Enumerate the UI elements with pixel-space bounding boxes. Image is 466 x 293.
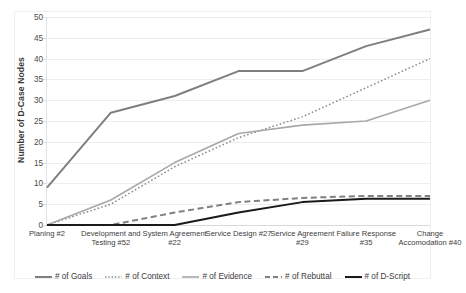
y-axis-tick-label: 45 — [3, 33, 43, 42]
series-line — [47, 29, 430, 187]
legend-label: # of Context — [125, 272, 169, 281]
legend-swatch-icon — [35, 273, 52, 281]
legend-item[interactable]: # of Rebuttal — [265, 272, 331, 281]
series-line — [47, 196, 430, 225]
x-axis-tick-label: System Agreement #22 — [139, 229, 211, 247]
legend-swatch-icon — [345, 273, 362, 281]
legend-item[interactable]: # of Goals — [35, 272, 92, 281]
chart-legend: # of Goals# of Context# of Evidence# of … — [0, 272, 445, 281]
legend-item[interactable]: # of D-Script — [345, 272, 411, 281]
legend-swatch-icon — [182, 273, 199, 281]
series-lines — [47, 17, 430, 225]
y-axis-tick-label: 15 — [3, 158, 43, 167]
y-axis-tick-label: 20 — [3, 137, 43, 146]
x-axis-tick-label: Service Design #27 — [203, 229, 275, 238]
x-axis-tick-label: Service Agreement #29 — [266, 229, 338, 247]
legend-label: # of Rebuttal — [285, 272, 331, 281]
x-axis-tick-label: Planing #2 — [11, 229, 83, 238]
x-axis-tick-label: Failure Response #35 — [330, 229, 402, 247]
legend-label: # of Evidence — [202, 272, 252, 281]
y-axis-tick-label: 25 — [3, 117, 43, 126]
y-axis-tick-label: 35 — [3, 75, 43, 84]
legend-swatch-icon — [105, 273, 122, 281]
x-axis-labels: Planing #2Development and Testing #52Sys… — [47, 229, 430, 269]
legend-label: # of D-Script — [365, 272, 411, 281]
y-axis-tick-label: 5 — [3, 200, 43, 209]
y-axis-ticks: 50454035302520151050 — [0, 17, 43, 225]
y-axis-tick-label: 50 — [3, 13, 43, 22]
y-axis-tick-label: 40 — [3, 54, 43, 63]
legend-label: # of Goals — [55, 272, 92, 281]
legend-item[interactable]: # of Evidence — [182, 272, 252, 281]
legend-swatch-icon — [265, 273, 282, 281]
y-axis-tick-label: 10 — [3, 179, 43, 188]
series-line — [47, 59, 430, 225]
legend-item[interactable]: # of Context — [105, 272, 169, 281]
plot-area — [47, 17, 430, 225]
y-axis-tick-label: 30 — [3, 96, 43, 105]
x-axis-tick-label: Change Accomodation #40 — [394, 229, 466, 247]
x-axis-tick-label: Development and Testing #52 — [75, 229, 147, 247]
